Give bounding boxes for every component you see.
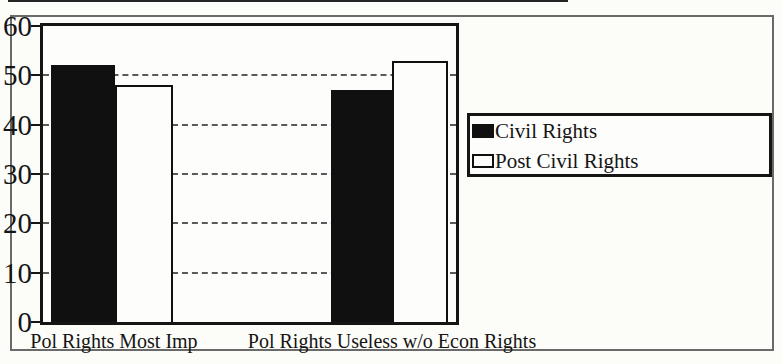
y-axis-tick-40 (31, 124, 40, 126)
bar-post-civil-rights-category-0 (115, 85, 173, 322)
y-axis-label-40: 40 (2, 110, 32, 140)
y-axis-tick-30 (31, 173, 40, 175)
y-axis-label-30: 30 (2, 159, 32, 189)
legend-item-post-civil-rights: Post Civil Rights (472, 148, 639, 174)
y-axis-tick-50 (31, 74, 40, 76)
y-axis-tick-10 (31, 272, 40, 274)
y-axis-label-10: 10 (2, 258, 32, 288)
y-axis-label-50: 50 (2, 60, 32, 90)
y-axis-tick-60 (31, 25, 40, 27)
post-civil-rights-swatch (472, 154, 494, 168)
bar-post-civil-rights-category-1 (392, 61, 448, 322)
civil-rights-swatch (472, 124, 494, 138)
legend-item-civil-rights: Civil Rights (472, 118, 597, 144)
y-axis-label-20: 20 (2, 208, 32, 238)
bar-civil-rights-category-1 (331, 90, 392, 322)
y-axis-label-60: 60 (2, 11, 32, 41)
legend-label-civil-rights: Civil Rights (495, 119, 597, 143)
category-label-pol-rights-useless: Pol Rights Useless w/o Econ Rights (192, 330, 592, 352)
scan-artifact-line (8, 0, 568, 2)
legend: Civil Rights Post Civil Rights (467, 113, 772, 177)
chart-figure: 0102030405060 Pol Rights Most Imp Pol Ri… (0, 0, 782, 364)
bar-civil-rights-category-0 (51, 65, 115, 322)
plot-area (40, 23, 459, 325)
y-axis-tick-0 (31, 321, 40, 323)
legend-label-post-civil-rights: Post Civil Rights (495, 149, 639, 173)
y-axis-tick-20 (31, 222, 40, 224)
